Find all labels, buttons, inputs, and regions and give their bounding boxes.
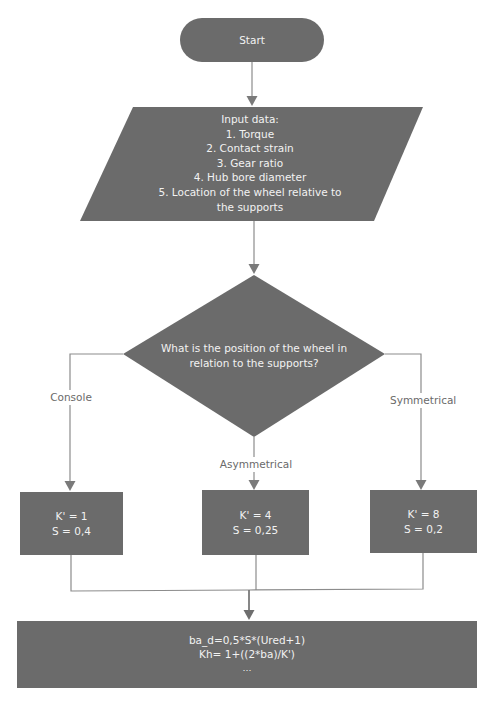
- calc-line-2: …: [17, 661, 477, 675]
- calc-line-1: Kh= 1+((2*ba)/K'): [17, 647, 477, 661]
- console-box-text: K' = 1 S = 0,4: [20, 509, 123, 539]
- input-text: Input data: 1. Torque 2. Contact strain …: [100, 112, 400, 214]
- connector-console: [65, 354, 124, 491]
- edge-label-console: Console: [46, 390, 96, 405]
- input-line-1: 1. Torque: [100, 127, 400, 142]
- console-k-value: K' = 1: [20, 509, 123, 524]
- calculation-text: ba_d=0,5*S*(Ured+1) Kh= 1+((2*ba)/K') …: [17, 633, 477, 675]
- symmetrical-box-text: K' = 8 S = 0,2: [370, 507, 477, 537]
- asymmetrical-s-value: S = 0,25: [202, 523, 309, 538]
- arrowhead-icon: [247, 96, 258, 106]
- symmetrical-k-value: K' = 8: [370, 507, 477, 522]
- edge-label-asymmetrical: Asymmetrical: [218, 457, 294, 472]
- decision-line-0: What is the position of the wheel in: [134, 341, 374, 356]
- console-s-value: S = 0,4: [20, 524, 123, 539]
- arrowhead-icon: [249, 480, 260, 490]
- input-line-4: 4. Hub bore diameter: [100, 170, 400, 185]
- input-line-5: 5. Location of the wheel relative to: [100, 185, 400, 200]
- input-line-0: Input data:: [100, 112, 400, 127]
- asymmetrical-label-text: Asymmetrical: [220, 458, 292, 470]
- arrowhead-icon: [416, 480, 427, 490]
- connector-symmetrical: [385, 354, 427, 490]
- calc-line-0: ba_d=0,5*S*(Ured+1): [17, 633, 477, 647]
- decision-line-1: relation to the supports?: [134, 356, 374, 371]
- input-line-6: the supports: [100, 200, 400, 215]
- console-label-text: Console: [50, 391, 92, 403]
- input-line-3: 3. Gear ratio: [100, 156, 400, 171]
- arrowhead-icon: [249, 264, 260, 274]
- decision-text: What is the position of the wheel in rel…: [134, 341, 374, 371]
- arrowhead-icon: [244, 610, 255, 620]
- arrowhead-icon: [65, 481, 76, 491]
- connector-merge: [71, 553, 423, 620]
- asymmetrical-box-text: K' = 4 S = 0,25: [202, 508, 309, 538]
- start-label-text: Start: [239, 34, 265, 46]
- connector-input-to-decision: [249, 221, 260, 274]
- connector-start-to-input: [247, 62, 258, 106]
- asymmetrical-k-value: K' = 4: [202, 508, 309, 523]
- edge-label-symmetrical: Symmetrical: [389, 393, 457, 408]
- start-label: Start: [180, 33, 324, 48]
- symmetrical-s-value: S = 0,2: [370, 522, 477, 537]
- input-line-2: 2. Contact strain: [100, 141, 400, 156]
- symmetrical-label-text: Symmetrical: [390, 394, 456, 406]
